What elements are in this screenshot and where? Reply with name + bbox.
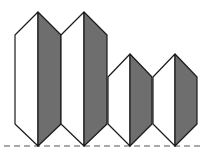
prism-2	[61, 12, 107, 146]
prism-4	[153, 54, 197, 146]
prism-3	[108, 54, 152, 146]
prism-group	[15, 12, 197, 146]
light-face	[15, 12, 38, 146]
dark-face	[130, 54, 152, 146]
light-face	[61, 12, 84, 146]
light-face	[153, 54, 175, 146]
dark-face	[84, 12, 107, 146]
prism-1	[15, 12, 61, 146]
dark-face	[175, 54, 197, 146]
prism-diagram	[0, 0, 206, 155]
light-face	[108, 54, 130, 146]
dark-face	[38, 12, 61, 146]
